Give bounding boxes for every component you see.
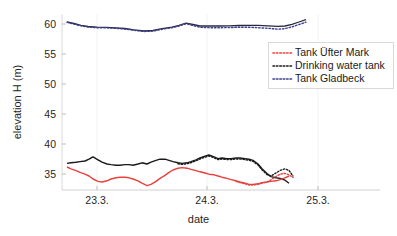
legend-item-tank-gladbeck[interactable]: Tank Gladbeck — [272, 72, 389, 85]
xtick-label-24-3: 24.3. — [177, 194, 237, 206]
ytick-label-60: 60 — [16, 18, 56, 30]
xtick-label-25-3: 25.3. — [288, 194, 348, 206]
legend-swatch-icon-tank-ufter-mark — [272, 47, 294, 58]
legend-label-drinking-water-tank: Drinking water tank — [295, 59, 385, 72]
legend-item-tank-ufter-mark[interactable]: Tank Üfter Mark — [272, 46, 389, 59]
y-axis-label: elevation H (m) — [11, 42, 23, 162]
legend-swatch-icon-drinking-water-tank — [272, 60, 294, 71]
xtick-label-23-3: 23.3. — [67, 194, 127, 206]
legend-label-tank-ufter-mark: Tank Üfter Mark — [295, 46, 369, 59]
chart-figure: 60 55 50 45 40 35 23.3. 24.3. 25.3. elev… — [0, 0, 397, 236]
chart-legend: Tank Üfter Mark Drinking water tank Tank… — [268, 42, 394, 89]
x-axis-label: date — [0, 213, 397, 225]
legend-swatch-icon-tank-gladbeck — [272, 73, 294, 84]
plot-background — [62, 14, 380, 190]
legend-label-tank-gladbeck: Tank Gladbeck — [295, 72, 364, 85]
legend-item-drinking-water-tank[interactable]: Drinking water tank — [272, 59, 389, 72]
ytick-label-35: 35 — [16, 168, 56, 180]
